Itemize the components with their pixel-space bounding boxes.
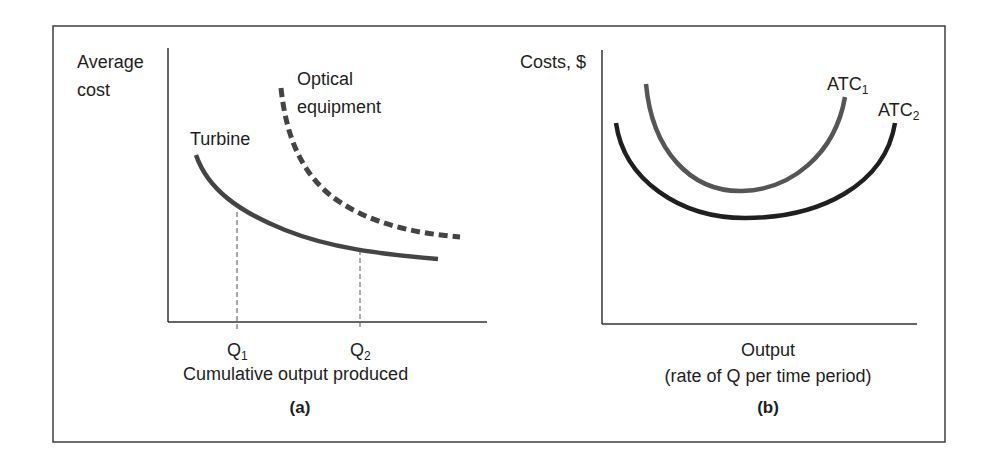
optical-label-line2: equipment <box>297 97 381 117</box>
panel-a-tag: (a) <box>290 398 311 417</box>
q1-label: Q1 <box>227 340 248 363</box>
panel-b-x-label-line1: Output <box>741 340 795 360</box>
panel-b-x-label-line2: (rate of Q per time period) <box>664 366 871 386</box>
atc1-label: ATC1 <box>827 74 869 97</box>
panel-a-y-label-line2: cost <box>77 80 110 100</box>
atc2-label: ATC2 <box>878 100 920 123</box>
q2-label: Q2 <box>350 340 371 363</box>
panel-b-tag: (b) <box>757 398 779 417</box>
panel-a: Average cost Turbine Optical equipment Q… <box>77 48 487 417</box>
atc1-curve <box>646 84 845 191</box>
turbine-curve <box>196 155 438 259</box>
optical-label-line1: Optical <box>297 69 353 89</box>
panel-b-y-label: Costs, $ <box>520 52 586 72</box>
panel-a-y-label-line1: Average <box>77 52 144 72</box>
turbine-label: Turbine <box>190 129 250 149</box>
panel-a-x-label: Cumulative output produced <box>183 364 408 384</box>
learning-curve-figure: Average cost Turbine Optical equipment Q… <box>0 0 991 467</box>
panel-b: Costs, $ ATC1 ATC2 Output (rate of Q per… <box>520 50 920 417</box>
